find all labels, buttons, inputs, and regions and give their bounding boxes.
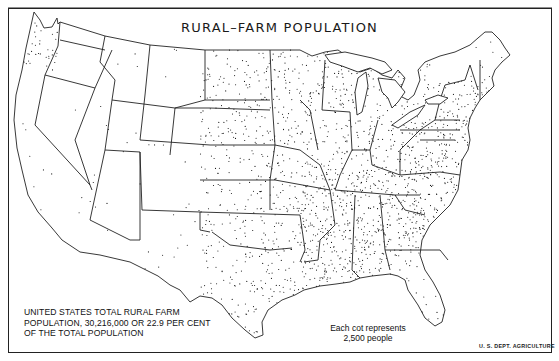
legend-line-2: 2,500 people (328, 333, 408, 343)
credit-label: U. S. DEPT. AGRICULTURE (479, 343, 555, 349)
us-outline (14, 12, 510, 338)
lake-erie (392, 105, 425, 128)
state-boundaries (14, 12, 510, 338)
summary-line-3: OF THE TOTAL POPULATION (24, 328, 211, 339)
legend-line-1: Each cot represents (328, 323, 408, 333)
population-dots (22, 22, 502, 333)
dot-legend: Each cot represents 2,500 people (328, 323, 408, 343)
great-lakes (325, 52, 448, 128)
summary-note: UNITED STATES TOTAL RURAL FARM POPULATIO… (24, 307, 211, 339)
lake-huron (378, 78, 405, 108)
lake-michigan (355, 72, 368, 115)
summary-line-1: UNITED STATES TOTAL RURAL FARM (24, 307, 211, 318)
summary-line-2: POPULATION, 30,216,000 OR 22.9 PER CENT (24, 318, 211, 329)
map-title: RURAL–FARM POPULATION (0, 20, 559, 35)
lake-superior (325, 52, 392, 74)
